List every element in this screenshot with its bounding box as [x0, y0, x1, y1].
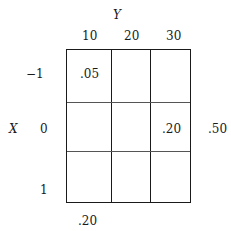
row-header-0: 0	[40, 123, 48, 135]
column-header-20: 20	[124, 30, 139, 42]
cell-r1-c2: .20	[162, 123, 181, 135]
row-header-minus1: −1	[26, 68, 44, 80]
grid-divider	[67, 102, 190, 103]
row-marginal-1: .50	[208, 123, 227, 135]
grid-divider	[150, 50, 151, 202]
table-grid: .05 .20	[66, 49, 191, 203]
y-axis-label: Y	[113, 9, 121, 21]
column-marginal-10: .20	[78, 215, 97, 227]
column-header-30: 30	[166, 30, 181, 42]
column-header-10: 10	[82, 30, 97, 42]
cell-r0-c0: .05	[80, 68, 99, 80]
row-header-1: 1	[40, 184, 48, 196]
x-axis-label: X	[9, 123, 18, 135]
grid-divider	[111, 50, 112, 202]
grid-divider	[67, 151, 190, 152]
